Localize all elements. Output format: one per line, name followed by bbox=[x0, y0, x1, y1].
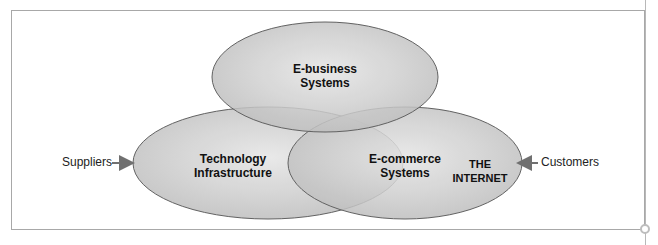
label-line: E-commerce bbox=[360, 152, 450, 166]
label-technology-infrastructure: Technology Infrastructure bbox=[178, 152, 288, 180]
label-the-internet: THE INTERNET bbox=[445, 157, 515, 185]
label-ebusiness-systems: E-business Systems bbox=[275, 62, 375, 90]
venn-diagram bbox=[0, 0, 658, 245]
label-ecommerce-systems: E-commerce Systems bbox=[360, 152, 450, 180]
label-line: E-business bbox=[275, 62, 375, 76]
label-line: Systems bbox=[275, 76, 375, 90]
label-customers: Customers bbox=[541, 155, 599, 169]
label-line: Infrastructure bbox=[178, 166, 288, 180]
label-line: Systems bbox=[360, 166, 450, 180]
label-suppliers: Suppliers bbox=[62, 155, 112, 169]
label-line: Technology bbox=[178, 152, 288, 166]
